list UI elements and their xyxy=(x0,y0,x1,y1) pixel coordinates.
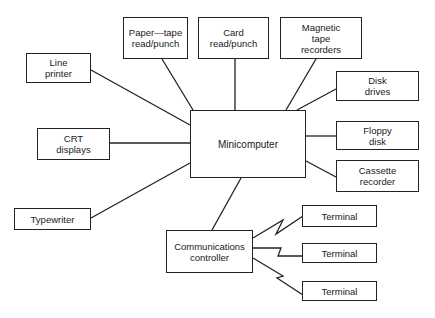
node-comms-controller: Communicationscontroller xyxy=(166,230,253,273)
node-terminal-3: Terminal xyxy=(302,281,377,301)
edge-terminal-3-zigzag xyxy=(253,258,303,295)
label-line: CRT xyxy=(56,133,90,144)
node-terminal-2: Terminal xyxy=(302,243,377,263)
label-line: disk xyxy=(363,136,392,147)
edge-paper-tape xyxy=(162,59,193,110)
label-line: drives xyxy=(365,86,390,97)
label-line: Paper—tape xyxy=(129,27,182,38)
label-line: recorder xyxy=(359,176,397,187)
label-line: tape xyxy=(301,33,341,44)
label-line: Disk xyxy=(365,75,390,86)
edge-terminal-1-zigzag xyxy=(253,216,303,238)
edge-line-printer xyxy=(91,70,190,125)
node-disk-drives: Diskdrives xyxy=(336,71,419,101)
label-line: Cassette xyxy=(359,165,397,176)
label-line: Terminal xyxy=(322,248,358,259)
edge-comms xyxy=(212,178,241,230)
label-line: controller xyxy=(174,252,245,263)
label-line: recorders xyxy=(301,44,341,55)
label-line: Line xyxy=(45,57,72,68)
node-card: Cardread/punch xyxy=(198,17,269,59)
node-typewriter: Typewriter xyxy=(14,208,91,230)
edge-typewriter xyxy=(91,163,190,218)
label-line: printer xyxy=(45,68,72,79)
label-line: Terminal xyxy=(322,211,358,222)
label-line: displays xyxy=(56,144,90,155)
node-paper-tape: Paper—taperead/punch xyxy=(123,17,188,59)
node-mag-tape: Magnetictaperecorders xyxy=(280,17,362,59)
edge-terminal-2-zigzag xyxy=(253,248,303,256)
node-floppy: Floppydisk xyxy=(336,121,419,150)
label-line: read/punch xyxy=(129,38,182,49)
edge-disk-drives xyxy=(297,89,336,110)
node-terminal-1: Terminal xyxy=(302,205,377,227)
label-line: Typewriter xyxy=(31,214,75,225)
node-line-printer: Lineprinter xyxy=(26,53,91,83)
node-crt: CRTdisplays xyxy=(37,128,110,160)
node-cassette: Cassetterecorder xyxy=(336,160,419,192)
label-line: Terminal xyxy=(322,286,358,297)
label-line: Floppy xyxy=(363,125,392,136)
label-line: Card xyxy=(210,27,258,38)
label-line: Communications xyxy=(174,241,245,252)
label-line: read/punch xyxy=(210,38,258,49)
label-line: Minicomputer xyxy=(218,139,278,150)
edge-cassette xyxy=(306,161,336,177)
node-minicomputer: Minicomputer xyxy=(190,110,306,178)
label-line: Magnetic xyxy=(301,22,341,33)
